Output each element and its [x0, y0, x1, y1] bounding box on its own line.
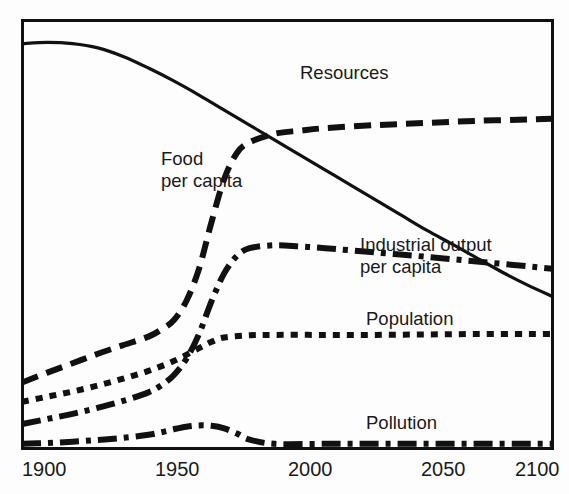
- x-tick-label-2050: 2050: [421, 458, 466, 481]
- x-tick-label-2000: 2000: [288, 458, 333, 481]
- series-path-pollution: [22, 425, 553, 444]
- x-tick-label-1950: 1950: [155, 458, 200, 481]
- series-label-industrial-line2: per capita: [360, 256, 441, 277]
- series-label-food-per-capita: Food per capita: [161, 148, 242, 192]
- series-label-food-line2: per capita: [161, 170, 242, 191]
- series-label-food-line1: Food: [161, 148, 203, 169]
- series-path-population: [22, 334, 553, 402]
- series-label-industrial-output-per-capita: Industrial output per capita: [360, 234, 492, 278]
- series-label-resources: Resources: [300, 62, 388, 84]
- x-tick-label-2100: 2100: [515, 458, 560, 481]
- chart-figure: Resources Food per capita Industrial out…: [0, 0, 569, 494]
- series-label-pollution: Pollution: [366, 412, 437, 434]
- series-label-population: Population: [366, 308, 453, 330]
- x-tick-label-1900: 1900: [22, 458, 67, 481]
- series-label-industrial-line1: Industrial output: [360, 234, 492, 255]
